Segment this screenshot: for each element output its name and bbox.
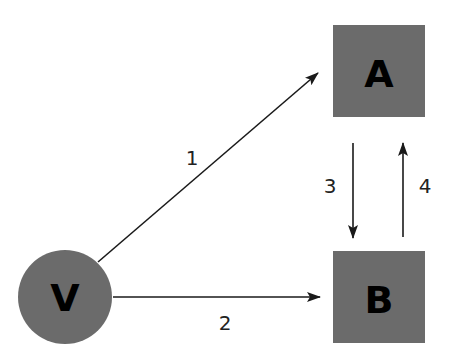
node-b-label: B [365, 278, 394, 322]
edge-label-3: 3 [324, 174, 337, 198]
edge-b-to-a: 4 [403, 143, 431, 237]
edge-a-to-b: 3 [324, 143, 353, 238]
edge-v-to-b: 2 [113, 297, 320, 335]
node-a-label: A [364, 52, 394, 96]
edge-label-1: 1 [186, 146, 199, 170]
node-a: A [333, 25, 425, 117]
edge-v-to-a: 1 [98, 73, 318, 262]
node-v-label: V [50, 276, 80, 320]
edge-label-2: 2 [219, 311, 232, 335]
arrow-v-to-a [98, 73, 318, 262]
node-v: V [18, 250, 112, 344]
edge-label-4: 4 [419, 174, 432, 198]
node-b: B [333, 251, 425, 343]
diagram-canvas: A B V 1 2 3 4 [0, 0, 454, 360]
